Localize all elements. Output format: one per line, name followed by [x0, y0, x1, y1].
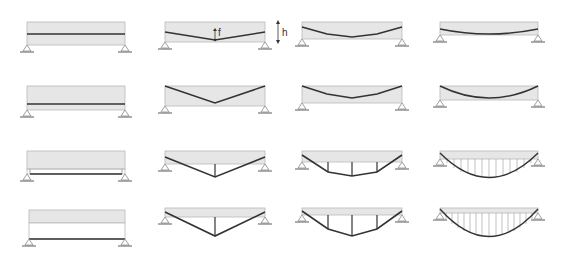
cell-r2-multi-drape: [295, 86, 409, 110]
support-roller-icon: [395, 39, 409, 46]
support-roller-icon: [118, 45, 132, 52]
cell-r3-parabolic: [433, 151, 545, 178]
cell-r4-parabolic: [433, 208, 545, 237]
sag-label: f: [218, 27, 221, 38]
beam: [27, 86, 125, 110]
depth-label: h: [282, 27, 288, 38]
beam: [440, 22, 538, 35]
sag-dot: [214, 39, 216, 41]
beam: [165, 151, 265, 164]
support-roller-icon: [118, 174, 132, 181]
support-pin-icon: [433, 35, 447, 42]
cell-r1-single-drape: f h: [158, 20, 288, 49]
support-roller-icon: [531, 159, 545, 166]
support-roller-icon: [258, 164, 272, 171]
cell-r2-single-drape: [158, 86, 272, 113]
cell-r1-multi-drape: [295, 22, 409, 46]
support-pin-icon: [295, 215, 309, 222]
support-pin-icon: [158, 42, 172, 49]
beam: [29, 210, 125, 223]
support-pin-icon: [158, 106, 172, 113]
cell-r1-parabolic: [433, 22, 545, 42]
support-pin-icon: [20, 45, 34, 52]
support-roller-icon: [258, 106, 272, 113]
beam: [165, 208, 265, 217]
beam: [302, 151, 402, 162]
support-pin-icon: [20, 110, 34, 117]
support-pin-icon: [295, 39, 309, 46]
cell-r4-straight: [22, 210, 132, 246]
support-roller-icon: [118, 110, 132, 117]
support-roller-icon: [531, 35, 545, 42]
cell-r4-multi-drape: [295, 208, 409, 236]
beam: [27, 151, 125, 169]
support-roller-icon: [395, 103, 409, 110]
beam: [440, 151, 538, 159]
support-pin-icon: [433, 100, 447, 107]
support-roller-icon: [395, 162, 409, 169]
cell-r1-straight: [20, 22, 132, 52]
cell-r3-multi-drape: [295, 151, 409, 176]
support-roller-icon: [258, 217, 272, 224]
depth-arrow-bottom-icon: [276, 40, 280, 44]
hangers: [446, 213, 532, 236]
support-roller-icon: [395, 215, 409, 222]
beam: [302, 86, 402, 103]
cell-r4-single-drape: [158, 208, 272, 236]
support-pin-icon: [295, 162, 309, 169]
beam: [440, 208, 538, 213]
cell-r3-single-drape: [158, 151, 272, 177]
support-pin-icon: [20, 174, 34, 181]
support-pin-icon: [158, 217, 172, 224]
support-pin-icon: [22, 239, 36, 246]
cell-r3-straight: [20, 151, 132, 181]
beam: [302, 208, 402, 215]
cell-r2-parabolic: [433, 86, 545, 107]
depth-arrow-top-icon: [276, 20, 280, 24]
support-roller-icon: [118, 239, 132, 246]
end-post-frame: [29, 223, 125, 239]
support-roller-icon: [531, 100, 545, 107]
cell-r2-straight: [20, 86, 132, 117]
support-pin-icon: [433, 159, 447, 166]
support-pin-icon: [158, 164, 172, 171]
support-roller-icon: [258, 42, 272, 49]
beam-profiles-diagram: f h: [0, 0, 568, 262]
support-pin-icon: [295, 103, 309, 110]
